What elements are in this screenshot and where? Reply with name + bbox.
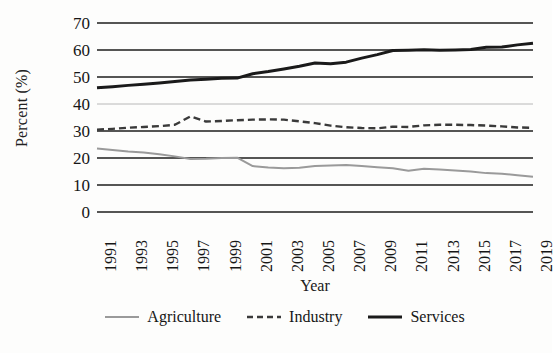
x-axis-title: Year [97, 277, 533, 295]
x-tick-label-text: 2003 [290, 240, 306, 272]
y-tick-label: 60 [73, 42, 90, 59]
x-tick-label-text: 1993 [134, 240, 150, 272]
legend-item-agriculture[interactable]: Agriculture [105, 308, 221, 326]
x-tick-label-text: 1991 [103, 240, 119, 272]
y-axis-title: Percent (%) [2, 0, 42, 215]
x-tick-label-text: 2005 [321, 240, 337, 272]
x-axis-title-text: Year [300, 277, 329, 294]
legend-swatch-services-icon [368, 312, 402, 322]
legend-label: Industry [289, 308, 342, 326]
gridlines [97, 23, 533, 212]
y-tick-label: 10 [73, 177, 90, 194]
x-tick-label-text: 1997 [196, 240, 212, 272]
x-axis-tick-labels: 1991199319951997199920012003200520072009… [97, 214, 533, 276]
x-tick-label-text: 2007 [352, 240, 368, 272]
x-tick-label-text: 2001 [259, 240, 275, 272]
legend-item-services[interactable]: Services [368, 308, 464, 326]
y-tick-label: 40 [73, 96, 90, 113]
y-tick-label: 50 [73, 69, 90, 86]
y-tick-label: 30 [73, 123, 90, 140]
x-tick-label-text: 2009 [383, 240, 399, 272]
y-axis-title-text: Percent (%) [13, 68, 31, 146]
y-tick-label: 0 [82, 204, 91, 221]
plot-area [97, 23, 533, 212]
chart-legend: AgricultureIndustryServices [40, 302, 530, 332]
y-axis-tick-labels: 010203040506070 [40, 0, 96, 353]
x-tick-label-text: 1995 [165, 240, 181, 272]
plot-svg [97, 23, 533, 212]
x-tick-label-text: 2011 [414, 241, 430, 272]
legend-label: Agriculture [147, 308, 221, 326]
legend-swatch-agriculture-icon [105, 312, 139, 322]
legend-swatch-industry-icon [247, 312, 281, 322]
legend-label: Services [410, 308, 464, 326]
x-tick-label-text: 2017 [508, 240, 524, 272]
x-tick-label-text: 1999 [228, 240, 244, 272]
legend-item-industry[interactable]: Industry [247, 308, 342, 326]
y-tick-label: 70 [73, 15, 90, 32]
series-line-industry [97, 116, 533, 129]
y-tick-label: 20 [73, 150, 90, 167]
x-tick-label-text: 2013 [446, 240, 462, 272]
data-series-layer [97, 43, 533, 176]
x-tick-label-text: 2019 [539, 240, 555, 272]
series-line-agriculture [97, 149, 533, 177]
x-tick-label-text: 2015 [477, 240, 493, 272]
